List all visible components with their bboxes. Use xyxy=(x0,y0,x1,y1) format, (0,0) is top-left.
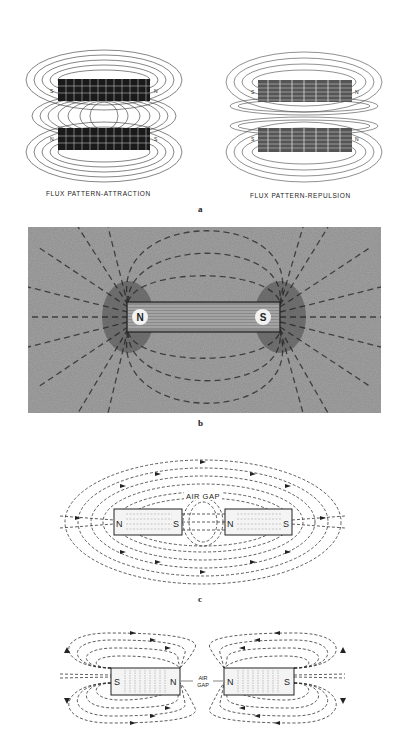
pole-label: S xyxy=(114,677,120,687)
air-gap-label-line2: GAP xyxy=(197,682,209,688)
pole-label: S xyxy=(251,89,255,95)
pole-label: N xyxy=(50,136,54,142)
attraction-top-magnet xyxy=(58,79,150,101)
magnet-right xyxy=(225,509,292,535)
caption-attraction: FLUX PATTERN-ATTRACTION xyxy=(46,190,151,197)
caption-repulsion: FLUX PATTERN-REPULSION xyxy=(250,192,351,199)
repulsion-flux-diagram: S N S N xyxy=(200,0,395,190)
sublabel-a: a xyxy=(198,204,203,214)
sublabel-c: c xyxy=(198,594,202,604)
pole-label: S xyxy=(154,136,158,142)
pole-label: S xyxy=(283,519,289,529)
air-gap-label: AIR GAP xyxy=(186,492,220,501)
repulsion-top-magnet xyxy=(258,80,352,102)
attraction-bottom-magnet xyxy=(58,128,150,150)
pole-label-n: N xyxy=(136,312,143,323)
pole-label: N xyxy=(227,677,234,687)
pole-label: S xyxy=(284,677,290,687)
figure-a-attraction: S N N S xyxy=(0,0,200,190)
pole-label-s: S xyxy=(260,312,267,323)
pole-label: N xyxy=(154,88,158,94)
figure-a-repulsion: S N S N xyxy=(200,0,395,190)
figure-c-series-magnets: N S N S AIR GAP xyxy=(0,450,395,595)
magnet-left xyxy=(114,509,182,535)
series-magnets-flux-diagram: N S N S AIR GAP xyxy=(0,450,395,595)
iron-filings-image: N S xyxy=(28,227,381,413)
opposing-magnets-flux-diagram: S N N S AIR GAP xyxy=(0,628,395,730)
figure-b-iron-filings-photo: N S xyxy=(28,227,381,413)
pole-label: S xyxy=(173,519,179,529)
pole-label: N xyxy=(355,89,359,95)
pole-label: N xyxy=(227,519,234,529)
air-gap-label-line1: AIR xyxy=(198,675,207,681)
attraction-flux-diagram: S N N S xyxy=(0,0,200,190)
pole-label: S xyxy=(50,88,54,94)
pole-label: N xyxy=(170,677,177,687)
pole-label: N xyxy=(116,519,123,529)
sublabel-b: b xyxy=(198,418,203,428)
pole-label: N xyxy=(355,136,359,142)
figure-d-opposing-magnets: S N N S AIR GAP xyxy=(0,628,395,730)
